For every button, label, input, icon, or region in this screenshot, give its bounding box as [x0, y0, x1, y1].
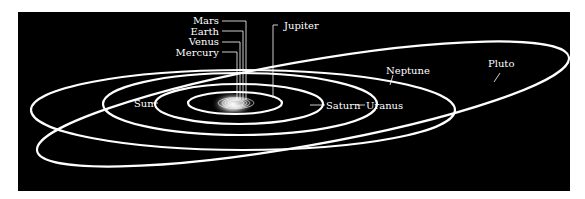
leader-mars: [222, 21, 246, 100]
solar-system-diagram: Mars Earth Venus Mercury Jupiter Sun Sat…: [0, 0, 585, 199]
label-jupiter: Jupiter: [283, 20, 319, 31]
leader-pluto: [494, 73, 500, 82]
leader-neptune: [390, 75, 393, 85]
label-pluto: Pluto: [488, 58, 514, 69]
label-mercury: Mercury: [176, 47, 220, 58]
label-neptune: Neptune: [386, 65, 430, 76]
label-mars: Mars: [193, 15, 219, 26]
label-sun: Sun: [134, 98, 154, 109]
orbit-pluto: [30, 16, 576, 192]
label-saturn: Saturn: [326, 100, 361, 111]
label-venus: Venus: [188, 36, 219, 47]
label-uranus: Uranus: [366, 100, 403, 111]
